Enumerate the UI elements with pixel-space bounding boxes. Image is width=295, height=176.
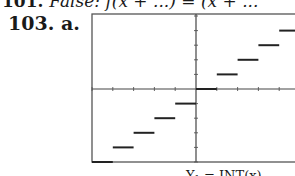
graph-caption: Y₁ = INT(x) [186, 168, 262, 176]
step-function-graph [0, 0, 295, 176]
plot-frame [92, 14, 295, 162]
